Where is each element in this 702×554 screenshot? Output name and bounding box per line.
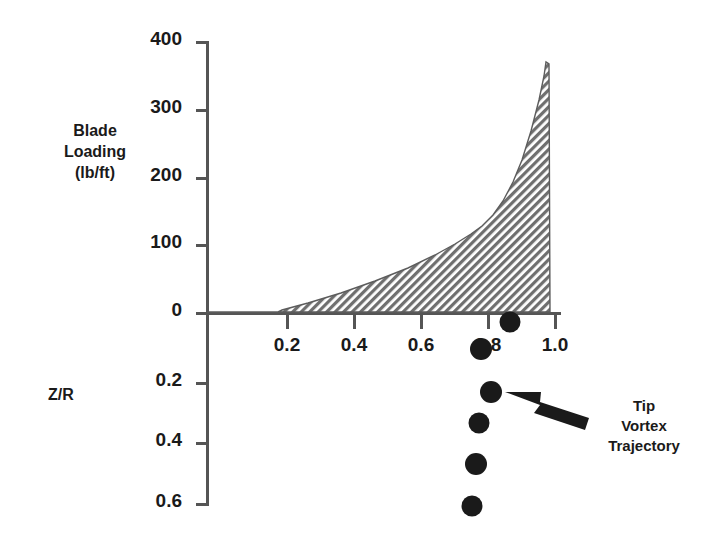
y-tick-label-400: 400 [110, 28, 182, 50]
data-point [469, 413, 490, 434]
x-tick-label-0-2: 0.2 [259, 334, 315, 356]
y-tick-label-100: 100 [110, 231, 182, 253]
y-tick-label-0: 0 [110, 299, 182, 321]
blade-loading-title-line-1: Blade [30, 120, 160, 141]
data-point [462, 496, 483, 517]
y-tick-label-200: 200 [110, 164, 182, 186]
figure-canvas: Blade Loading (lb/ft) Z/R 400 300 200 10… [0, 0, 702, 554]
x-tick-label-0-4: 0.4 [326, 334, 382, 356]
y-tick-label-300: 300 [110, 96, 182, 118]
blade-loading-title-line-2: Loading [30, 141, 160, 162]
zr-y-axis [196, 330, 208, 506]
zr-tick-label-0-4: 0.4 [110, 429, 182, 451]
annotation-line-1: Tip [592, 396, 696, 416]
zr-tick-label-0-6: 0.6 [110, 490, 182, 512]
data-point [465, 453, 487, 475]
annotation-line-3: Trajectory [592, 436, 696, 456]
zr-tick-label-0-2: 0.2 [110, 369, 182, 391]
annotation-line-2: Vortex [592, 416, 696, 436]
x-tick-label-1-0: 1.0 [527, 334, 583, 356]
data-point [500, 312, 521, 333]
x-tick-label-0-8: 0.8 [460, 334, 516, 356]
x-tick-label-0-6: 0.6 [393, 334, 449, 356]
blade-loading-area [207, 62, 550, 312]
tip-vortex-annotation-label: Tip Vortex Trajectory [592, 396, 696, 456]
tip-vortex-arrow [505, 392, 589, 430]
chart-plot-area [0, 0, 702, 554]
blade-loading-y-axis [196, 41, 208, 352]
data-point [480, 381, 502, 403]
